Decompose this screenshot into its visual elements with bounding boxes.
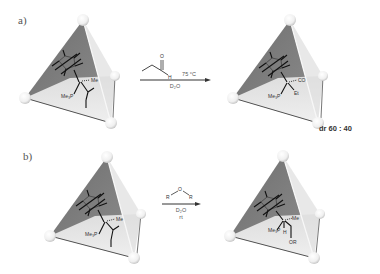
condition-temperature: 75 °C — [182, 72, 196, 78]
reagent-oxygen-b: O — [178, 187, 182, 192]
ligand-methyl-b: Me — [116, 217, 123, 222]
reagent-hydrogen-a: H — [168, 75, 172, 80]
substituent-alkoxy: OR — [289, 240, 297, 245]
reaction-arrow-a — [140, 78, 211, 82]
ligand-phosphine-a: Me₃P — [61, 94, 73, 99]
reagent-propanal — [142, 60, 168, 75]
reagent-r-right: R — [189, 195, 193, 200]
panel-label-b: b) — [23, 150, 32, 162]
ligand-phosphine-b: Me₃P — [85, 232, 97, 237]
reagent-oxygen-a: O — [160, 54, 164, 59]
substituent-ethyl: Et — [294, 91, 299, 96]
reaction-arrow-b — [162, 202, 201, 206]
reagent-r-left: R — [166, 195, 170, 200]
panel-a — [19, 14, 328, 129]
product-cage-a — [227, 14, 328, 129]
diastereomeric-ratio: dr 60 : 40 — [319, 124, 352, 133]
product-cage-b — [224, 150, 325, 264]
condition-solvent-a: D₂O — [170, 84, 180, 90]
reactant-cage-a — [19, 14, 120, 129]
ligand-methyl-a: Me — [91, 78, 98, 83]
condition-room-temp: rt — [179, 215, 182, 221]
panel-label-a: a) — [18, 14, 27, 26]
ligand-carbonyl: CO — [298, 78, 306, 83]
reaction-scheme — [0, 0, 380, 274]
ligand-hydride: H — [283, 230, 287, 235]
ligand-phosphine-b-product: Me₃P — [268, 228, 280, 233]
ligand-methyl-b-product: Me — [292, 216, 299, 221]
reactant-cage-b — [44, 151, 146, 264]
ligand-phosphine-a-product: Me₃P — [268, 94, 280, 99]
condition-solvent-b: D₂O — [176, 208, 186, 214]
